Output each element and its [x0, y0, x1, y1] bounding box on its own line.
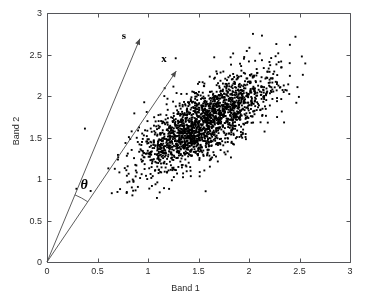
theta-angle-label: θ [80, 177, 87, 193]
x-tick-label-1: 0.5 [91, 266, 104, 276]
y-tick-label-6: 3 [24, 8, 42, 18]
y-tick-label-0: 0 [24, 257, 42, 267]
x-tick-label-5: 2.5 [293, 266, 306, 276]
y-tick-label-3: 1.5 [24, 133, 42, 143]
y-tick-label-5: 2.5 [24, 50, 42, 60]
scatter-plot-figure: 0 0.5 1 1.5 2 2.5 3 0 0.5 1 1.5 2 2.5 3 … [0, 0, 371, 304]
x-axis-label: Band 1 [0, 283, 371, 293]
y-axis-label-wrapper: Band 2 [5, 91, 23, 171]
x-tick-label-0: 0 [44, 266, 49, 276]
scatter-plot-canvas [0, 0, 371, 304]
x-tick-label-2: 1 [145, 266, 150, 276]
y-tick-label-4: 2 [24, 91, 42, 101]
y-tick-label-2: 1 [24, 174, 42, 184]
x-tick-label-6: 3 [347, 266, 352, 276]
vector-s-label: s [122, 29, 126, 41]
x-tick-label-4: 2 [246, 266, 251, 276]
vector-x-label: x [161, 52, 167, 64]
y-tick-label-1: 0.5 [24, 216, 42, 226]
y-axis-label: Band 2 [11, 117, 21, 146]
x-tick-label-3: 1.5 [192, 266, 205, 276]
